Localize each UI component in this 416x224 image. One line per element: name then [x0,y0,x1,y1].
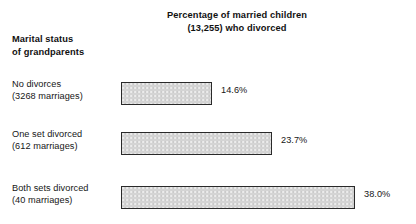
bar [121,132,272,155]
bar-category-label: No divorces (3268 marriages) [12,78,83,102]
bar-value-label: 23.7% [281,135,307,146]
chart-title-line-1: Percentage of married children [148,9,326,22]
bar-value-label: 38.0% [364,189,390,200]
bar-category-label-line-2: (40 marriages) [12,194,88,206]
category-axis-title-line-2: of grandparents [12,46,84,59]
chart-title: Percentage of married children (13,255) … [148,9,326,34]
bar-row: Both sets divorced (40 marriages) 38.0% [0,182,416,212]
bar-row: No divorces (3268 marriages) 14.6% [0,78,416,108]
bar-category-label-line-1: One set divorced [12,128,82,140]
bar-category-label: Both sets divorced (40 marriages) [12,182,88,206]
bar-chart-figure: Percentage of married children (13,255) … [0,0,416,224]
bar [121,82,212,105]
category-axis-title-line-1: Marital status [12,33,84,46]
bar-row: One set divorced (612 marriages) 23.7% [0,128,416,158]
bar-category-label: One set divorced (612 marriages) [12,128,82,152]
bar-category-label-line-1: Both sets divorced [12,182,88,194]
bar-category-label-line-1: No divorces [12,78,83,90]
bar [121,186,355,209]
bar-category-label-line-2: (612 marriages) [12,140,82,152]
bar-value-label: 14.6% [221,85,247,96]
chart-title-line-2: (13,255) who divorced [148,22,326,35]
bar-category-label-line-2: (3268 marriages) [12,90,83,102]
category-axis-title: Marital status of grandparents [12,33,84,58]
